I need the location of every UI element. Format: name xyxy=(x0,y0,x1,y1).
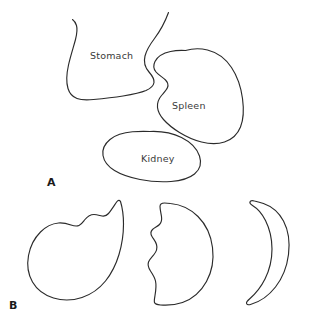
organ-label-kidney: Kidney xyxy=(141,153,175,164)
organ-label-spleen: Spleen xyxy=(172,100,206,111)
panel-label-a: A xyxy=(47,176,56,189)
panel-label-b: B xyxy=(9,299,17,312)
anatomical-figure: Stomach Spleen Kidney A B xyxy=(0,0,315,324)
organ-label-stomach: Stomach xyxy=(90,50,133,61)
figure-canvas: Stomach Spleen Kidney A B xyxy=(0,0,315,324)
